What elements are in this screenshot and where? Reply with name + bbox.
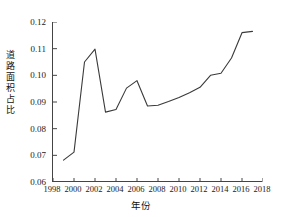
- x-axis-ticks: [53, 178, 263, 182]
- data-series-line: [64, 31, 253, 160]
- line-chart: 0.12 0.11 0.10 0.09 0.08 0.07 0.06 道路面积占…: [0, 0, 282, 217]
- x-tick-label: 2016: [233, 184, 250, 194]
- x-tick-label: 2012: [191, 184, 208, 194]
- y-tick-label: 0.07: [30, 151, 46, 160]
- x-tick-label: 2008: [149, 184, 166, 194]
- y-tick-label: 0.10: [30, 71, 46, 80]
- y-axis-ticks: [53, 22, 57, 182]
- plot-area: [52, 22, 262, 182]
- series-canvas: [53, 22, 263, 182]
- x-tick-label: 2014: [212, 184, 229, 194]
- y-tick-label: 0.12: [30, 18, 46, 27]
- y-tick-label: 0.08: [30, 124, 46, 133]
- x-tick-label: 2004: [107, 184, 124, 194]
- y-axis-title: 道路面积占比: [4, 50, 16, 116]
- y-tick-label: 0.11: [31, 44, 46, 53]
- y-tick-label: 0.09: [30, 98, 46, 107]
- x-axis-title: 年份: [0, 198, 282, 212]
- x-tick-label: 2006: [128, 184, 145, 194]
- x-tick-label: 2002: [86, 184, 103, 194]
- x-tick-label: 2000: [65, 184, 82, 194]
- x-tick-label: 1998: [44, 184, 61, 194]
- x-tick-label: 2018: [254, 184, 271, 194]
- x-tick-label: 2010: [170, 184, 187, 194]
